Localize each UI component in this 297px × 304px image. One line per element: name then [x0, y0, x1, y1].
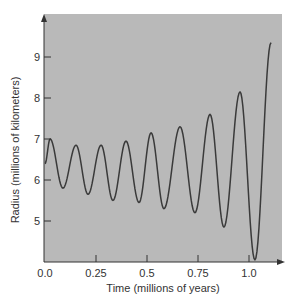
x-tick-label: 0.25 — [85, 267, 106, 279]
y-tick-label: 7 — [34, 133, 40, 145]
x-tick-label: 1.0 — [241, 267, 256, 279]
x-tick-label: 0.0 — [37, 267, 52, 279]
y-tick-label: 5 — [34, 215, 40, 227]
y-tick-label: 6 — [34, 174, 40, 186]
y-tick-label: 9 — [34, 51, 40, 63]
y-tick-label: 8 — [34, 92, 40, 104]
chart-canvas: 0.00.250.50.751.056789 Time (millions of… — [0, 0, 297, 304]
y-axis-label: Radius (millions of kilometers) — [9, 77, 21, 224]
x-axis-label: Time (millions of years) — [106, 282, 219, 294]
x-tick-label: 0.75 — [187, 267, 208, 279]
x-tick-label: 0.5 — [139, 267, 154, 279]
plot-area — [44, 14, 282, 262]
